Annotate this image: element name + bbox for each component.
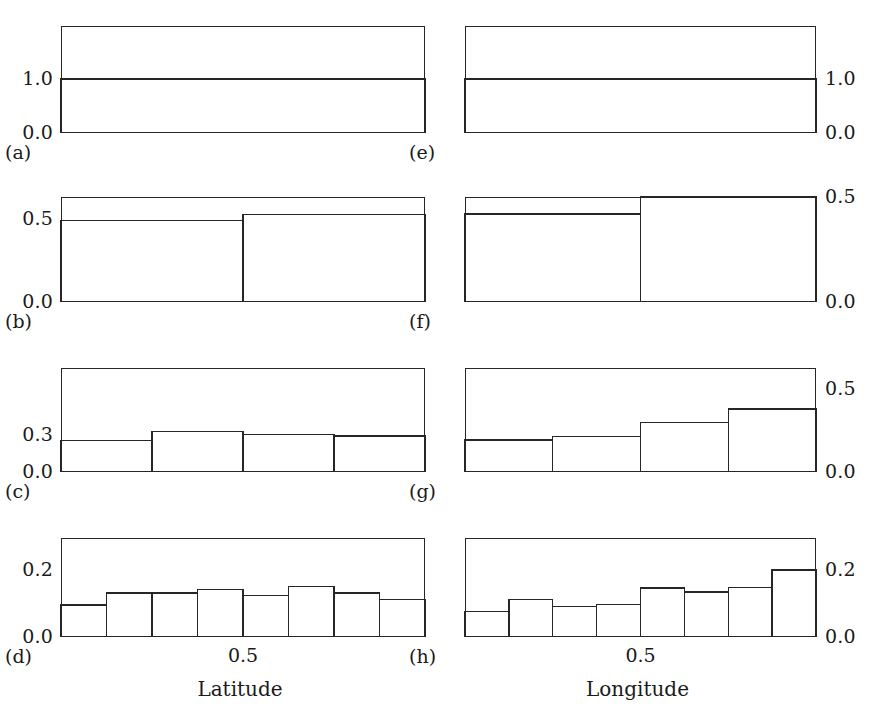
panel-d-xtick-label: 0.5 <box>228 646 258 665</box>
panel-h-xaxis-title: Longitude <box>586 679 689 699</box>
panel-f <box>465 197 816 302</box>
panel-a <box>61 26 425 133</box>
panel-f-ytick-label: 0.0 <box>825 292 872 311</box>
panel-d-tag: (d) <box>5 647 32 666</box>
panel-g-plot <box>465 368 816 472</box>
panel-e <box>465 26 816 133</box>
panel-c-tag: (c) <box>5 482 30 501</box>
panel-b-plot <box>61 197 425 302</box>
panel-b-tag: (b) <box>5 312 32 331</box>
panel-d-ytick-label: 0.0 <box>5 627 53 646</box>
panel-h-ytick-label: 0.2 <box>825 560 872 579</box>
histogram-outline <box>465 79 816 133</box>
panel-e-ytick-label: 0.0 <box>825 123 872 142</box>
panel-c-ytick-label: 0.3 <box>5 425 53 444</box>
panel-f-tag: (f) <box>409 312 431 331</box>
panel-a-ytick-label: 0.0 <box>5 123 53 142</box>
panel-d-ytick-label: 0.2 <box>5 560 53 579</box>
panel-b-ytick-label: 0.0 <box>5 292 53 311</box>
panel-g-tag: (g) <box>409 482 436 501</box>
panel-a-tag: (a) <box>5 143 31 162</box>
panel-g <box>465 368 816 472</box>
panel-e-ytick-label: 1.0 <box>825 69 872 88</box>
panel-d-xaxis-title: Latitude <box>197 679 282 699</box>
panel-e-plot <box>465 26 816 133</box>
panel-g-ytick-label: 0.5 <box>825 379 872 398</box>
panel-h-plot <box>465 538 816 637</box>
panel-e-tag: (e) <box>409 143 435 162</box>
panel-h-tag: (h) <box>409 647 436 666</box>
panel-h-ytick-label: 0.0 <box>825 627 872 646</box>
panel-c-plot <box>61 368 425 472</box>
panel-f-plot <box>465 197 816 302</box>
panel-h-xtick-label: 0.5 <box>625 646 655 665</box>
panel-h <box>465 538 816 637</box>
panel-d <box>61 538 425 637</box>
panel-a-plot <box>61 26 425 133</box>
panel-c-ytick-label: 0.0 <box>5 462 53 481</box>
histogram-outline <box>61 79 425 133</box>
panel-a-ytick-label: 1.0 <box>5 69 53 88</box>
panel-b <box>61 197 425 302</box>
panel-c <box>61 368 425 472</box>
panel-g-ytick-label: 0.0 <box>825 462 872 481</box>
panel-f-ytick-label: 0.5 <box>825 187 872 206</box>
panel-d-plot <box>61 538 425 637</box>
histogram-figure: 0.01.0(a)0.00.5(b)0.00.3(c)0.00.2(d)0.5L… <box>0 0 872 719</box>
panel-b-ytick-label: 0.5 <box>5 209 53 228</box>
